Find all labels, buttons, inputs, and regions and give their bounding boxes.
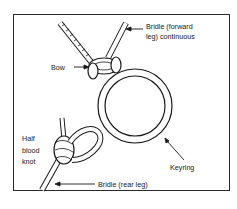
label-bridle-rear: Bridle (rear leg) (98, 180, 148, 189)
label-keyring: Keyring (170, 163, 194, 172)
half-blood-knot (54, 129, 100, 164)
label-bow: Bow (51, 63, 65, 72)
label-blood: blood (22, 146, 40, 155)
label-bridle-forward-2: leg) continuous (146, 32, 195, 41)
bow-knot (88, 57, 121, 79)
bridle-forward-left-rope (60, 23, 92, 63)
keyring-shape (98, 69, 172, 143)
bridle-forward-right-rope (108, 23, 126, 58)
label-bridle-forward-1: Bridle (forward (146, 22, 193, 31)
label-knot: knot (22, 157, 36, 166)
knot-illustration (0, 0, 237, 209)
label-half: Half (22, 134, 35, 143)
